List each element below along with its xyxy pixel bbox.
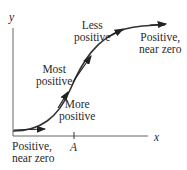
tangent-arrow-start [14, 129, 45, 130]
label-less-positive: Lesspositive [74, 19, 110, 43]
y-axis-label: y [9, 11, 14, 23]
label-most-positive: Mostpositive [36, 63, 72, 87]
tick-label-a: A [70, 141, 77, 153]
x-axis-label: x [154, 131, 159, 143]
label-more-positive: Morepositive [59, 98, 95, 122]
label-end: Positive,near zero [139, 31, 181, 55]
label-start: Positive,near zero [12, 140, 54, 164]
tangent-arrow-most [73, 56, 91, 82]
